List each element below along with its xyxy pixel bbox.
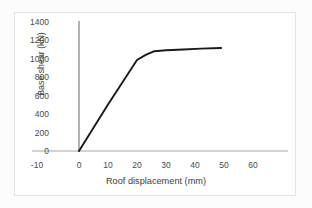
x-tick-label-50: 50: [208, 161, 240, 170]
y-tick-label-200: 200: [13, 129, 49, 138]
x-tick-label-30: 30: [150, 161, 182, 170]
x-tick-label-60: 60: [237, 161, 269, 170]
y-axis-title: Base shear (kN): [36, 14, 46, 114]
x-tick-label-40: 40: [179, 161, 211, 170]
x-tick-label-10: 10: [92, 161, 124, 170]
chart-frame: 1400 1200 1000 800 600 400 200 0 -10 0 1…: [14, 12, 296, 196]
x-tick-label-20: 20: [121, 161, 153, 170]
y-tick-label-0: 0: [13, 147, 49, 156]
data-series-pushover-curve: [79, 48, 221, 151]
figure-canvas: 1400 1200 1000 800 600 400 200 0 -10 0 1…: [0, 0, 312, 208]
x-axis-title: Roof displacement (mm): [0, 176, 312, 186]
x-tick-label-minus10: -10: [21, 161, 53, 170]
x-tick-label-0: 0: [63, 161, 95, 170]
